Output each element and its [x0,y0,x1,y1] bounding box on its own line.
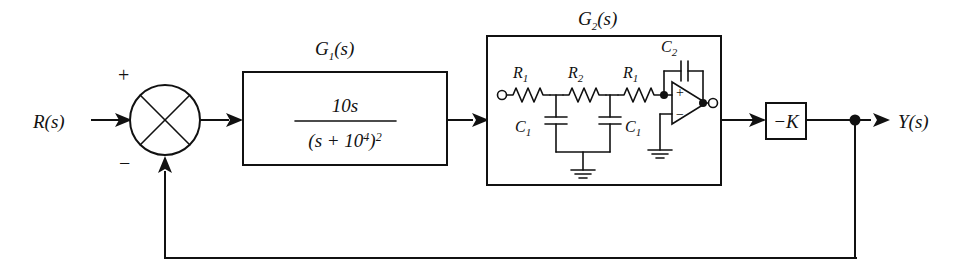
g1-block-rect [243,72,447,165]
g1-block: G1(s) 10s (s + 104)2 [243,38,447,165]
g1-numerator: 10s [332,95,358,116]
opamp-plus-sign: + [676,85,684,100]
feedback-arrowhead [158,156,172,173]
gain-block: −K [766,103,806,139]
output-arrowhead [873,113,890,127]
g1-block-label: G1(s) [315,38,354,62]
input-signal-label: R(s) [32,111,65,133]
g2-block: G2(s) R1 R2 R1 [487,8,721,185]
summing-minus-sign: − [119,152,130,174]
opamp-minus-sign: − [676,107,684,122]
g2-block-rect [487,36,721,185]
block-diagram-canvas: R(s) + − G1(s) 10s (s + 104)2 [0,0,965,278]
summing-plus-sign: + [118,64,129,86]
g2-output-terminal [709,99,718,108]
junction-dot-opamp-output [699,99,707,107]
g1-denominator: (s + 104)2 [308,130,381,152]
g2-input-terminal [498,91,507,100]
summing-junction: + − [118,64,200,174]
control-system-diagram: R(s) + − G1(s) 10s (s + 104)2 [0,0,965,278]
gain-block-label: −K [773,111,800,132]
output-signal-label: Y(s) [898,111,929,133]
g2-block-label: G2(s) [578,8,617,32]
